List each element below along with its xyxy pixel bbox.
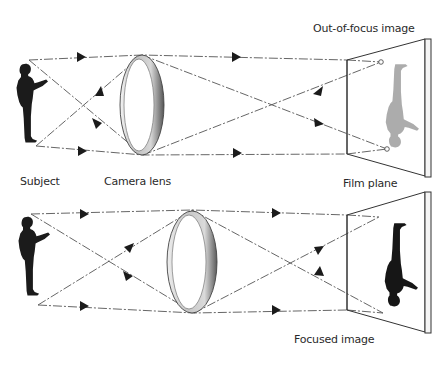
arrow-icon	[80, 209, 89, 219]
label-film-plane: Film plane	[343, 177, 397, 190]
arrow-icon	[78, 146, 87, 156]
arrow-icon	[272, 305, 281, 315]
film-plane	[347, 192, 431, 333]
out-of-focus-image	[379, 60, 419, 152]
caption-out-of-focus-image: Out-of-focus image	[313, 22, 415, 35]
panel-out-of-focus	[17, 39, 432, 177]
arrow-icon	[272, 208, 281, 218]
arrow-icon	[233, 148, 242, 158]
panel-focused	[19, 192, 432, 333]
arrow-icon	[77, 52, 86, 62]
arrow-icon	[95, 86, 104, 96]
arrow-icon	[80, 301, 89, 311]
arrow-icon	[313, 86, 323, 96]
light-rays	[29, 55, 387, 155]
label-subject: Subject	[20, 175, 60, 188]
convex-lens	[120, 55, 164, 155]
focused-image	[385, 223, 418, 306]
subject-silhouette	[19, 217, 51, 296]
arrow-icon	[232, 52, 241, 62]
arrow-icon	[314, 266, 324, 276]
arrow-icon	[314, 246, 324, 255]
camera-focus-diagram: Out-of-focus image Subject Camera lens F…	[0, 0, 444, 369]
caption-focused-image: Focused image	[294, 333, 374, 346]
convex-lens	[167, 211, 217, 313]
arrow-icon	[314, 118, 324, 127]
label-camera-lens: Camera lens	[104, 175, 171, 188]
subject-silhouette	[17, 64, 49, 143]
direction-arrows	[77, 52, 324, 158]
